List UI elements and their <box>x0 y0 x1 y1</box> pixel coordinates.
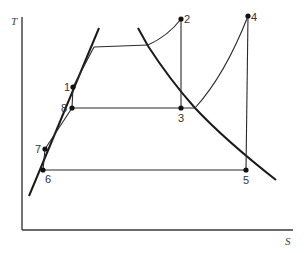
state-point-2 <box>178 16 183 21</box>
label-point-1: 1 <box>64 81 70 93</box>
label-point-5: 5 <box>243 174 249 186</box>
process-superheat-to-4 <box>195 16 248 108</box>
label-point-8: 8 <box>61 102 67 114</box>
label-point-7: 7 <box>35 143 41 155</box>
process-4-to-5 <box>246 16 248 170</box>
t-s-diagram: T S 1 2 3 4 5 6 7 8 <box>0 0 307 253</box>
process-1-to-liquid-line <box>73 47 94 87</box>
process-superheat-to-2 <box>148 19 181 45</box>
saturated-vapour-line <box>138 28 276 180</box>
state-point-8 <box>69 105 74 110</box>
state-point-1 <box>70 84 75 89</box>
label-point-3: 3 <box>178 112 184 124</box>
y-axis-label: T <box>11 15 18 27</box>
process-evaporation-plateau <box>94 45 148 47</box>
x-axis-label: S <box>285 235 291 247</box>
state-point-5 <box>243 167 248 172</box>
state-point-7 <box>42 146 47 151</box>
label-point-2: 2 <box>184 13 190 25</box>
state-point-6 <box>40 167 45 172</box>
label-point-4: 4 <box>251 11 257 23</box>
label-point-6: 6 <box>45 173 51 185</box>
state-point-4 <box>245 13 250 18</box>
process-7-to-8 <box>45 108 72 149</box>
state-point-3 <box>178 105 183 110</box>
